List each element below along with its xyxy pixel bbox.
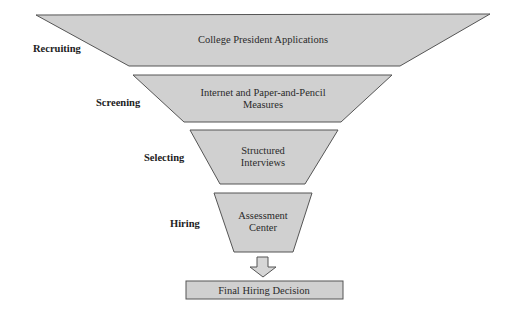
stage-text-line-2: Interviews: [241, 157, 285, 168]
phase-label-selecting: Selecting: [144, 152, 185, 163]
stage-text-line-1: Structured: [241, 145, 285, 156]
hiring-funnel-diagram: College President Applications Recruitin…: [0, 0, 512, 313]
stage-text-line-1: Internet and Paper-and-Pencil: [200, 87, 325, 98]
stage-text-line-1: Assessment: [238, 210, 288, 221]
final-decision-box: Final Hiring Decision: [186, 281, 343, 299]
down-arrow-icon: [250, 257, 276, 277]
funnel-stage-selecting: Structured Interviews Selecting: [144, 130, 338, 184]
stage-text-line-2: Center: [249, 222, 277, 233]
phase-label-hiring: Hiring: [170, 218, 201, 229]
funnel-stage-screening: Internet and Paper-and-Pencil Measures S…: [96, 75, 392, 122]
stage-text: College President Applications: [198, 34, 328, 45]
stage-text-line-2: Measures: [243, 99, 283, 110]
phase-label-recruiting: Recruiting: [33, 43, 82, 54]
funnel-stage-recruiting: College President Applications Recruitin…: [33, 14, 490, 66]
funnel-stage-hiring: Assessment Center Hiring: [170, 193, 312, 252]
phase-label-screening: Screening: [96, 97, 141, 108]
final-decision-label: Final Hiring Decision: [218, 285, 310, 296]
